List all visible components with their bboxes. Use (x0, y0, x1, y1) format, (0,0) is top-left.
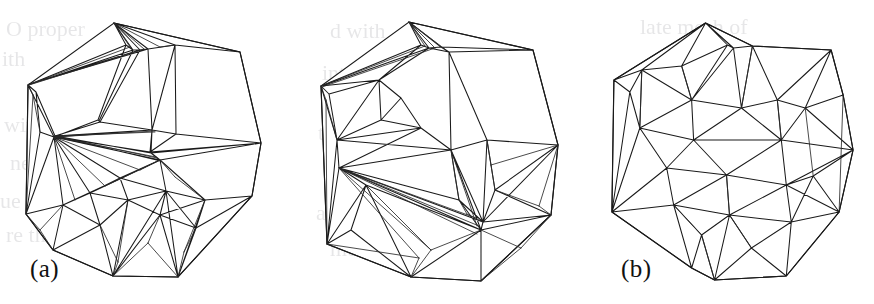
mesh-diagram-c (582, 0, 873, 304)
figure-triangulations: O proper ith with ne ue time re the d wi… (0, 0, 874, 304)
panel-c: (c) (582, 0, 873, 304)
mesh-boundary-c (612, 23, 853, 280)
mesh-diagram-b (291, 0, 582, 304)
mesh-boundary-a (26, 23, 261, 277)
panel-a: (a) (0, 0, 291, 304)
panel-b: (b) (291, 0, 582, 304)
panel-label-a: (a) (30, 256, 59, 281)
